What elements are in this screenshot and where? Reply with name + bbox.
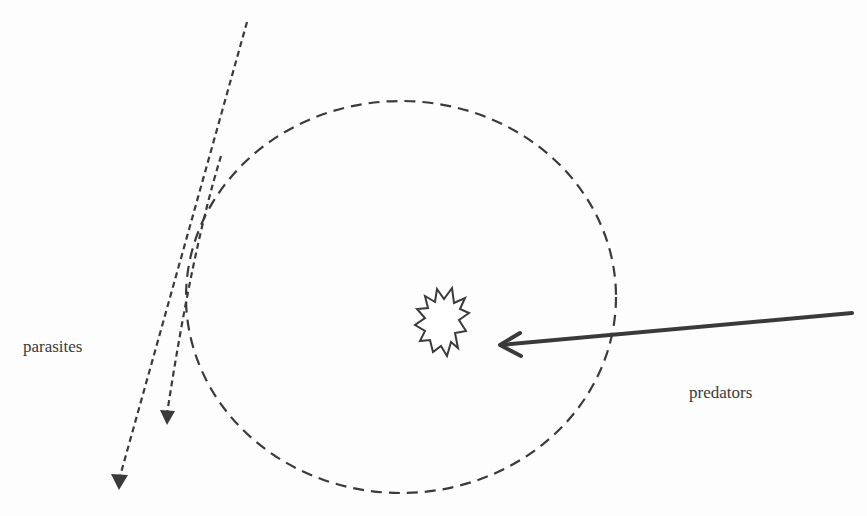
parasite-arrow-long — [111, 22, 247, 490]
predators-label: predators — [689, 384, 752, 401]
parasite-arrow-short — [160, 156, 221, 425]
burst-icon — [415, 288, 469, 356]
predator-arrow — [500, 313, 852, 356]
boundary-circle — [186, 101, 616, 493]
parasites-label: parasites — [23, 338, 82, 355]
diagram-canvas — [0, 0, 867, 516]
